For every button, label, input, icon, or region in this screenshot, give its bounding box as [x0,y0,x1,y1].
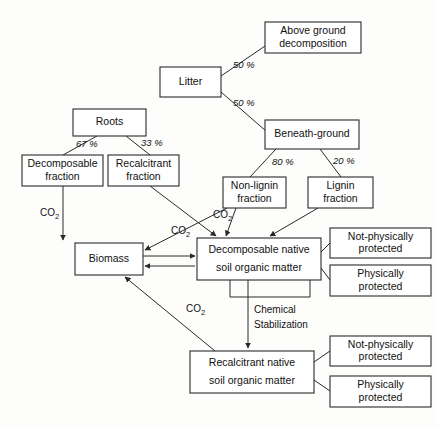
node-not-physically-protected-bottom[interactable]: Not-physicallyprotected [330,336,431,366]
node-label-recalcitrant-fraction-line1: Recalcitrant [116,157,172,169]
co2-subscript: 2 [55,212,59,221]
node-above-ground-decomposition[interactable]: Above grounddecomposition [265,22,361,53]
edge-som-not-physically-protected [321,243,330,252]
node-label-recalcitrant-fraction-line2: fraction [126,170,161,182]
node-beneath-ground[interactable]: Beneath-ground [265,120,359,149]
flow-diagram: Above grounddecompositionLitterBeneath-g… [0,0,438,428]
edge-label-beneath-to-non-lignin: 80 % [272,156,294,167]
label-co2-decomposable-fraction: CO2 [40,207,59,221]
edge-layer [63,46,341,391]
node-label-physically-protected-top-line1: Physically [357,267,404,279]
node-litter[interactable]: Litter [160,67,221,97]
node-lignin-fraction[interactable]: Ligninfraction [308,177,373,208]
node-label-lignin-fraction-line1: Lignin [326,179,354,191]
label-co2-recalcitrant-som: CO2 [186,303,205,317]
node-label-lignin-fraction-line2: fraction [323,192,358,204]
node-physically-protected-bottom[interactable]: Physicallyprotected [330,376,431,407]
node-label-physically-protected-bottom-line2: protected [359,391,403,403]
co2-subscript: 2 [186,230,190,239]
edge-label-litter-to-above-ground: 50 % [233,59,255,70]
node-recalcitrant-native-som[interactable]: Recalcitrant nativesoil organic matter [190,351,314,393]
node-decomposable-native-som[interactable]: Decomposable nativesoil organic matter [197,238,321,280]
label-chemical-stabilization-label-line1: Chemical [254,304,296,315]
node-not-physically-protected-top[interactable]: Not-physicallyprotected [330,228,431,258]
node-biomass[interactable]: Biomass [75,243,143,275]
node-label-non-lignin-fraction-line2: fraction [237,192,272,204]
node-label-recalcitrant-native-som-line1: Recalcitrant native [209,356,296,368]
node-label-decomposable-fraction-line1: Decomposable [27,157,97,169]
node-physically-protected-top[interactable]: Physicallyprotected [330,265,431,296]
node-label-decomposable-fraction-line2: fraction [45,170,80,182]
node-label-biomass: Biomass [89,252,129,264]
edge-label-roots-to-recalcitrant: 33 % [141,137,163,148]
node-label-decomposable-native-som-line1: Decomposable native [209,243,310,255]
diagram-canvas: Above grounddecompositionLitterBeneath-g… [0,0,438,428]
node-recalcitrant-fraction[interactable]: Recalcitrantfraction [108,155,179,186]
edge-som-bracket [230,280,310,297]
node-non-lignin-fraction[interactable]: Non-ligninfraction [223,177,286,208]
node-label-above-ground-decomposition-line1: Above ground [280,24,346,36]
label-co2-recalcitrant-fraction: CO2 [171,225,190,239]
node-label-not-physically-protected-top-line2: protected [359,242,403,254]
edge-label-beneath-to-lignin: 20 % [332,155,355,166]
label-co2-non-lignin: CO2 [213,209,232,223]
node-label-litter: Litter [179,75,203,87]
node-label-physically-protected-bottom-line1: Physically [357,378,404,390]
edge-recalcitrant-som-not-physically-protected [314,351,330,362]
node-label-above-ground-decomposition-line2: decomposition [279,37,347,49]
node-label-not-physically-protected-bottom-line1: Not-physically [348,338,414,350]
edge-label-litter-to-beneath-ground: 50 % [233,97,255,108]
edge-lignin-som [270,208,318,236]
node-roots[interactable]: Roots [73,109,146,136]
node-label-not-physically-protected-top-line1: Not-physically [348,230,414,242]
co2-subscript: 2 [201,308,205,317]
edge-recalcitrant-som-physically-protected [314,380,330,391]
node-label-physically-protected-top-line2: protected [359,280,403,292]
node-label-roots: Roots [96,115,123,127]
node-label-non-lignin-fraction-line1: Non-lignin [231,179,278,191]
node-label-recalcitrant-native-som-line2: soil organic matter [209,374,295,386]
label-chemical-stabilization-label-line2: Stabilization [254,319,308,330]
node-decomposable-fraction[interactable]: Decomposablefraction [22,155,103,186]
node-label-not-physically-protected-bottom-line2: protected [359,350,403,362]
node-label-decomposable-native-som-line2: soil organic matter [216,261,302,273]
node-label-beneath-ground: Beneath-ground [274,127,349,139]
edge-label-roots-to-decomposable: 67 % [76,138,98,149]
edge-som-physically-protected [321,268,330,280]
co2-subscript: 2 [228,214,232,223]
